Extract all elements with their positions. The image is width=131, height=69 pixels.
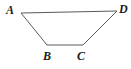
vertex-label-a: A <box>6 4 14 16</box>
vertex-label-b: B <box>43 50 51 62</box>
trapezoid-drawing <box>0 0 131 69</box>
vertex-label-c: C <box>77 50 85 62</box>
geometry-figure: A B C D <box>0 0 131 69</box>
trapezoid-shape <box>21 11 117 45</box>
vertex-label-d: D <box>119 3 128 15</box>
